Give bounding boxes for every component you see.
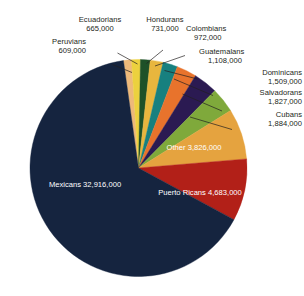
callout-ecuadorians-value: 665,000 <box>60 24 140 33</box>
slice-label-puerto-ricans: Puerto Ricans 4,683,000 <box>156 188 244 198</box>
callout-salvadorans: Salvadorans 1,827,000 <box>198 88 302 107</box>
callout-dominicans-value: 1,509,000 <box>198 77 302 86</box>
slice-label-mexicans-value: 32,916,000 <box>83 180 121 189</box>
slice-label-puerto-ricans-value: 4,683,000 <box>208 188 242 197</box>
callout-ecuadorians-name: Ecuadorians <box>79 15 121 24</box>
callout-peruvians: Peruvians 609,000 <box>2 37 86 56</box>
callout-guatemalans-name: Guatemalans <box>199 47 244 56</box>
callout-guatemalans-value: 1,108,000 <box>199 56 244 65</box>
callout-salvadorans-name: Salvadorans <box>260 88 302 97</box>
callout-colombians: Colombians 972,000 <box>186 24 226 43</box>
callout-dominicans: Dominicans 1,509,000 <box>198 68 302 87</box>
callout-dominicans-name: Dominicans <box>262 68 302 77</box>
callout-cubans-value: 1,884,000 <box>198 119 302 128</box>
callout-peruvians-name: Peruvians <box>52 37 86 46</box>
callout-salvadorans-value: 1,827,000 <box>198 97 302 106</box>
callout-cubans: Cubans 1,884,000 <box>198 110 302 129</box>
slice-label-puerto-ricans-name: Puerto Ricans <box>158 188 206 197</box>
callout-hondurans-name: Hondurans <box>146 15 183 24</box>
callout-ecuadorians: Ecuadorians 665,000 <box>60 15 140 34</box>
callout-guatemalans: Guatemalans 1,108,000 <box>199 47 244 66</box>
callout-peruvians-value: 609,000 <box>2 46 86 55</box>
slice-label-other-value: 3,826,000 <box>188 143 222 152</box>
slice-label-mexicans: Mexicans 32,916,000 <box>30 180 140 190</box>
callout-colombians-value: 972,000 <box>186 33 226 42</box>
slice-label-other-name: Other <box>167 143 186 152</box>
slice-label-other: Other 3,826,000 <box>158 143 230 153</box>
pie-chart-figure: Peruvians 609,000 Ecuadorians 665,000 Ho… <box>0 0 304 296</box>
slice-label-mexicans-name: Mexicans <box>49 180 81 189</box>
callout-colombians-name: Colombians <box>186 24 226 33</box>
callout-cubans-name: Cubans <box>276 110 302 119</box>
